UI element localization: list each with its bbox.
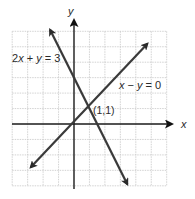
x-axis-label: x xyxy=(180,118,187,130)
intersection-label: (1,1) xyxy=(93,104,115,116)
y-axis-label: y xyxy=(67,5,75,17)
coordinate-plane: x y 2x + y = 3 x − y = 0 (1,1) xyxy=(0,0,195,199)
equation-label-x-minus-y: x − y = 0 xyxy=(118,79,161,91)
equation-label-2x-plus-y: 2x + y = 3 xyxy=(12,52,60,64)
